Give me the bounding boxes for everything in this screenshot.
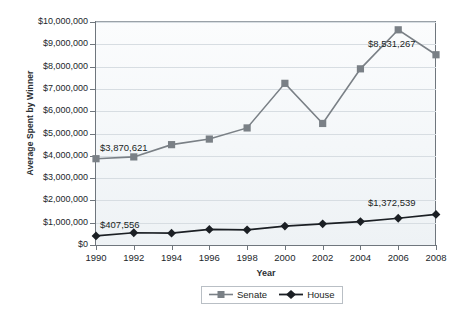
data-point-house: [243, 225, 252, 234]
data-label: $3,870,621: [100, 142, 148, 153]
legend-label-senate: Senate: [237, 289, 267, 300]
data-point-house: [92, 232, 101, 241]
data-point-senate: [395, 26, 402, 33]
data-label: $407,556: [100, 219, 140, 230]
data-point-senate: [357, 65, 364, 72]
chart-root: Average Spent by Winner $0$1,000,000$2,0…: [0, 0, 466, 321]
data-point-senate: [92, 155, 99, 162]
data-point-senate: [206, 135, 213, 142]
data-point-house: [394, 214, 403, 223]
chart-legend[interactable]: Senate House: [201, 286, 343, 304]
x-axis-title: Year: [96, 268, 436, 278]
data-point-house: [432, 210, 441, 219]
data-label: $1,372,539: [368, 197, 416, 208]
data-point-senate: [281, 80, 288, 87]
data-point-senate: [244, 124, 251, 131]
legend-item-senate[interactable]: Senate: [209, 289, 267, 300]
data-point-house: [356, 217, 365, 226]
legend-swatch-senate: [209, 289, 233, 300]
series-line-senate: [96, 30, 436, 159]
data-point-house: [280, 222, 289, 231]
data-point-house: [167, 229, 176, 238]
legend-label-house: House: [307, 289, 334, 300]
data-point-senate: [130, 153, 137, 160]
data-point-senate: [168, 141, 175, 148]
series-line-house: [96, 214, 436, 236]
data-point-senate: [432, 51, 439, 58]
data-label: $8,531,267: [368, 38, 416, 49]
data-point-house: [318, 219, 327, 228]
legend-item-house[interactable]: House: [279, 289, 334, 300]
data-point-house: [205, 225, 214, 234]
data-point-senate: [319, 120, 326, 127]
legend-swatch-house: [279, 289, 303, 300]
